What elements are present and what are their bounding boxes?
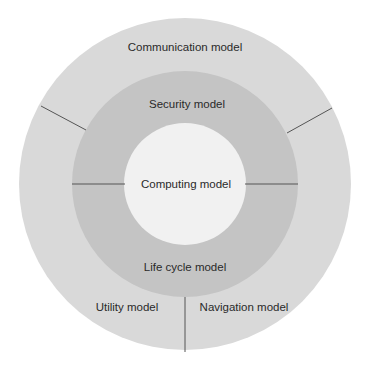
label-utility-model: Utility model: [96, 300, 159, 314]
label-life-cycle-model: Life cycle model: [144, 260, 226, 274]
label-computing-model: Computing model: [141, 177, 231, 191]
label-navigation-model: Navigation model: [200, 300, 289, 314]
label-communication-model: Communication model: [128, 40, 242, 54]
label-security-model: Security model: [149, 97, 225, 111]
